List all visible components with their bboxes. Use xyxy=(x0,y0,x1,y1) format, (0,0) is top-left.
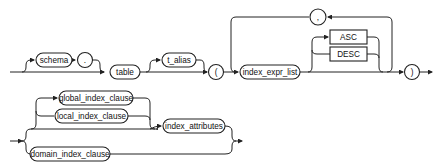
syntax-diagram: schema . table t_alias ( index_expr_list… xyxy=(0,0,440,167)
dot-label: . xyxy=(84,56,86,65)
index-attributes-node: index_attributes xyxy=(163,119,225,133)
open-paren-node: ( xyxy=(209,65,224,80)
comma-node: , xyxy=(310,9,326,25)
t-alias-label: t_alias xyxy=(167,56,191,65)
asc-label: ASC xyxy=(340,33,357,42)
schema-node: schema xyxy=(36,53,72,67)
index-expr-list-label: index_expr_list xyxy=(243,68,298,77)
row1-nodes: schema . table t_alias ( index_expr_list… xyxy=(36,9,420,80)
local-index-clause-label: local_index_clause xyxy=(57,112,127,121)
schema-label: schema xyxy=(40,56,69,65)
comma-label: , xyxy=(317,13,319,22)
dot-node: . xyxy=(78,53,93,68)
domain-index-clause-label: domain_index_clause xyxy=(30,150,110,159)
index-expr-list-node: index_expr_list xyxy=(240,65,300,79)
table-label: table xyxy=(116,68,134,77)
close-paren-node: ) xyxy=(405,65,420,80)
row1-lines xyxy=(10,17,432,72)
open-paren-label: ( xyxy=(215,68,218,77)
global-index-clause-label: global_index_clause xyxy=(59,94,134,103)
close-paren-label: ) xyxy=(411,68,414,77)
local-index-clause-node: local_index_clause xyxy=(55,109,128,123)
domain-index-clause-node: domain_index_clause xyxy=(30,147,110,161)
desc-node: DESC xyxy=(330,47,367,61)
t-alias-node: t_alias xyxy=(162,53,196,67)
table-node: table xyxy=(110,65,140,79)
global-index-clause-node: global_index_clause xyxy=(59,91,134,105)
index-attributes-label: index_attributes xyxy=(165,122,223,131)
asc-node: ASC xyxy=(330,30,367,44)
desc-label: DESC xyxy=(337,50,360,59)
row2-nodes: global_index_clause local_index_clause i… xyxy=(30,91,225,161)
